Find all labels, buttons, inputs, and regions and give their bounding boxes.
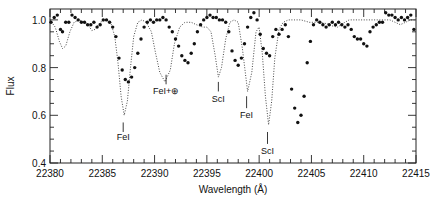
data-point [318,21,321,24]
spectrum-chart: 2238022385223902239522400224052241022415… [0,0,438,204]
data-point [340,23,343,26]
model-spectrum-line [50,20,416,125]
data-point [371,25,374,28]
data-point [224,21,227,24]
y-axis-ticks [50,20,416,163]
data-point [227,30,230,33]
data-point [252,11,255,14]
x-tick-label: 22405 [298,168,326,179]
data-point [243,42,246,45]
x-tick-label: 22385 [88,168,116,179]
data-point [331,21,334,24]
data-point [259,33,262,36]
data-point [287,35,290,38]
data-point [80,21,83,24]
data-point [397,18,400,21]
x-axis-label: Wavelength (Å) [199,183,268,195]
data-point [277,33,280,36]
data-point [105,18,108,21]
data-point [139,37,142,40]
data-point [149,18,152,21]
data-point [86,23,89,26]
data-point [362,42,365,45]
data-point [215,16,218,19]
data-point [409,13,412,16]
data-point [218,18,221,21]
data-point [280,28,283,31]
data-point [343,25,346,28]
data-point [61,30,64,33]
data-point [221,18,224,21]
data-point [312,23,315,26]
data-point [265,52,268,55]
data-point [309,40,312,43]
data-point [274,28,277,31]
data-point [171,30,174,33]
annotation-label: FeI [240,110,253,120]
data-point [384,11,387,14]
y-axis-label: Flux [5,77,16,96]
data-point [290,87,293,90]
data-point [95,25,98,28]
data-point [208,13,211,16]
data-point [193,42,196,45]
data-point [190,52,193,55]
data-point [205,16,208,19]
data-point [108,21,111,24]
observed-spectrum-points [49,11,415,124]
data-point [117,56,120,59]
data-point [315,18,318,21]
data-point [183,59,186,62]
y-tick-label: 1.0 [32,15,46,26]
data-point [136,52,139,55]
data-point [92,21,95,24]
data-point [400,16,403,19]
data-point [334,23,337,26]
data-point [130,75,133,78]
data-point [353,35,356,38]
line-identification-labels: FeIFeI+⊕ScIFeIScI [117,75,274,156]
data-point [64,21,67,24]
data-point [346,23,349,26]
data-point [114,35,117,38]
data-point [375,23,378,26]
data-point [365,44,368,47]
data-point [168,25,171,28]
data-point [99,23,102,26]
x-tick-label: 22400 [245,168,273,179]
data-point [152,21,155,24]
data-point [67,21,70,24]
annotation-label: ScI [261,146,274,156]
data-point [142,25,145,28]
data-point [306,61,309,64]
data-point [378,21,381,24]
data-point [368,30,371,33]
x-tick-label: 22410 [350,168,378,179]
data-point [146,21,149,24]
data-point [77,18,80,21]
y-axis-tick-labels: 0.40.60.81.0 [32,15,46,169]
data-point [180,54,183,57]
data-point [56,13,59,16]
data-point [196,30,199,33]
data-point [246,25,249,28]
data-point [255,18,258,21]
model-line [50,20,416,125]
data-point [271,35,274,38]
data-point [350,28,353,31]
data-point [299,114,302,117]
x-axis-ticks [50,9,416,163]
data-point [296,121,299,124]
annotation-label: FeI [117,132,130,142]
data-point [158,18,161,21]
data-point [155,18,158,21]
data-point [161,16,164,19]
y-tick-label: 0.6 [32,110,46,121]
data-point [412,28,415,31]
data-point [230,49,233,52]
data-point [202,18,205,21]
data-point [249,16,252,19]
annotation-label: ScI [212,94,225,104]
data-point [174,37,177,40]
x-axis-tick-labels: 2238022385223902239522400224052241022415 [36,168,430,179]
